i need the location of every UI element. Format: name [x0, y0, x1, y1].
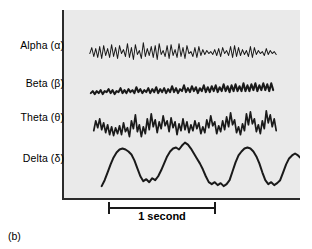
panel-caption: (b)	[8, 230, 21, 242]
wave-label-theta: Theta (θ)	[21, 111, 65, 123]
wave-label-delta: Delta (δ)	[23, 152, 64, 164]
time-scalebar: 1 second	[108, 202, 216, 224]
eeg-waveforms-svg	[64, 10, 300, 198]
waveform-theta	[94, 111, 276, 137]
waveform-delta	[102, 143, 300, 187]
wave-label-alpha: Alpha (α)	[20, 39, 64, 51]
waveform-beta	[91, 83, 273, 94]
wave-label-beta: Beta (β)	[26, 77, 64, 89]
scalebar-line	[108, 207, 216, 209]
eeg-figure: Alpha (α) Beta (β) Theta (θ) Delta (δ) 1…	[0, 0, 312, 249]
waveform-alpha	[90, 43, 276, 60]
eeg-plot-panel	[62, 10, 300, 200]
scalebar-label: 1 second	[108, 210, 216, 222]
